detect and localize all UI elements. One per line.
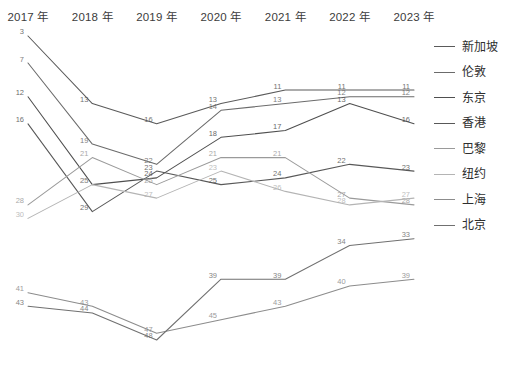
legend-item-2[interactable]: 东京 (434, 85, 522, 111)
point-label: 43 (16, 298, 24, 307)
point-label: 26 (273, 183, 281, 192)
legend-label: 新加坡 (462, 41, 498, 53)
legend-item-3[interactable]: 香港 (434, 111, 522, 137)
point-label: 43 (273, 298, 281, 307)
point-label: 16 (402, 115, 410, 124)
point-label: 13 (273, 95, 281, 104)
legend-item-4[interactable]: 巴黎 (434, 136, 522, 162)
point-label: 3 (20, 27, 24, 36)
legend-swatch-icon (434, 225, 455, 226)
legend-item-7[interactable]: 北京 (434, 213, 522, 239)
point-label: 40 (337, 277, 345, 286)
legend-swatch-icon (434, 72, 455, 73)
legend-item-6[interactable]: 上海 (434, 187, 522, 213)
legend-item-1[interactable]: 伦敦 (434, 60, 522, 86)
series-path (28, 239, 414, 340)
legend-swatch-icon (434, 46, 455, 47)
point-label: 39 (273, 271, 281, 280)
point-label: 30 (16, 210, 24, 219)
point-label: 27 (144, 190, 152, 199)
point-label: 23 (144, 163, 152, 172)
point-label: 23 (209, 163, 217, 172)
legend-item-0[interactable]: 新加坡 (434, 34, 522, 60)
legend-swatch-icon (434, 123, 455, 124)
series-line-6: 41434745434039 (16, 271, 414, 334)
point-label: 28 (16, 196, 24, 205)
point-label: 44 (80, 304, 88, 313)
point-label: 19 (80, 136, 88, 145)
point-label: 21 (209, 149, 217, 158)
point-label: 34 (337, 237, 345, 246)
legend-label: 北京 (462, 219, 486, 231)
point-label: 25 (80, 176, 88, 185)
legend-swatch-icon (434, 97, 455, 98)
point-label: 39 (209, 271, 217, 280)
point-label: 12 (16, 88, 24, 97)
point-label: 21 (80, 149, 88, 158)
legend-label: 纽约 (462, 168, 486, 180)
point-label: 7 (20, 55, 24, 64)
point-label: 11 (274, 82, 282, 91)
legend-swatch-icon (434, 148, 455, 149)
chart-legend: 新加坡伦敦东京香港巴黎纽约上海北京 (434, 34, 522, 238)
point-label: 33 (402, 230, 410, 239)
legend-label: 香港 (462, 117, 486, 129)
point-label: 21 (273, 149, 281, 158)
legend-swatch-icon (434, 199, 455, 200)
point-label: 22 (337, 156, 345, 165)
series-line-5: 30252723262827 (16, 163, 414, 219)
point-label: 48 (144, 331, 152, 340)
legend-item-5[interactable]: 纽约 (434, 162, 522, 188)
point-label: 13 (80, 95, 88, 104)
point-label: 27 (402, 190, 410, 199)
point-label: 39 (402, 271, 410, 280)
point-label: 28 (337, 196, 345, 205)
legend-label: 上海 (462, 194, 486, 206)
point-label: 16 (144, 115, 152, 124)
point-label: 12 (402, 88, 410, 97)
bump-chart: 2017 年2018 年2019 年2020 年2021 年2022 年2023… (0, 0, 522, 372)
point-label: 14 (209, 102, 217, 111)
legend-label: 东京 (462, 92, 486, 104)
point-label: 17 (273, 122, 281, 131)
point-label: 25 (209, 176, 217, 185)
point-label: 24 (273, 169, 281, 178)
point-label: 16 (16, 115, 24, 124)
point-label: 25 (144, 176, 152, 185)
point-label: 41 (16, 284, 24, 293)
point-label: 13 (337, 95, 345, 104)
legend-label: 伦敦 (462, 66, 486, 78)
point-label: 18 (209, 129, 217, 138)
point-label: 23 (402, 163, 410, 172)
point-label: 45 (209, 311, 217, 320)
legend-label: 巴黎 (462, 143, 486, 155)
point-label: 29 (80, 203, 88, 212)
legend-swatch-icon (434, 174, 455, 175)
